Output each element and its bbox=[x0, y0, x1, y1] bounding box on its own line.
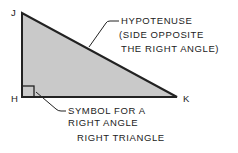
vertex-j-label: J bbox=[11, 8, 16, 18]
vertex-k-label: K bbox=[183, 94, 190, 104]
triangle-figure bbox=[0, 0, 238, 153]
vertex-h-label: H bbox=[11, 94, 18, 104]
symbol-label-line1: SYMBOL FOR A bbox=[68, 106, 146, 116]
hypotenuse-label-line1: HYPOTENUSE bbox=[121, 16, 192, 26]
symbol-label-line2: RIGHT ANGLE bbox=[68, 118, 138, 128]
hypotenuse-label-line2: (SIDE OPPOSITE bbox=[119, 30, 204, 40]
hypotenuse-leader bbox=[89, 21, 119, 47]
hypotenuse-label-line3: THE RIGHT ANGLE) bbox=[121, 44, 219, 54]
diagram-title: RIGHT TRIANGLE bbox=[77, 133, 165, 143]
